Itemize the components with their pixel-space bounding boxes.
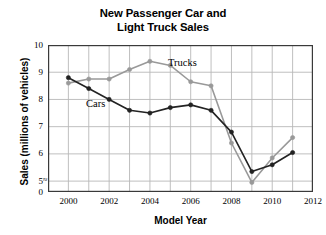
- data-point-cars: [127, 108, 131, 112]
- y-tick-label-5: 5: [21, 176, 43, 186]
- data-series-group: [66, 59, 294, 184]
- x-tick-label-2000: 2000: [48, 196, 88, 206]
- y-tick-label-6: 6: [21, 148, 43, 158]
- x-tick-label-2008: 2008: [211, 196, 251, 206]
- x-tick-label-2010: 2010: [252, 196, 292, 206]
- series-line-trucks: [68, 61, 292, 182]
- data-point-trucks: [270, 156, 274, 160]
- x-tick-label-2012: 2012: [293, 196, 326, 206]
- data-point-trucks: [209, 84, 213, 88]
- data-point-cars: [189, 103, 193, 107]
- y-tick-label-0: 0: [21, 187, 43, 197]
- y-axis-break-marker: ≈: [43, 176, 47, 184]
- chart-title-line-2: Light Truck Sales: [0, 21, 326, 35]
- data-point-trucks: [127, 67, 131, 71]
- data-point-cars: [229, 130, 233, 134]
- data-point-cars: [209, 108, 213, 112]
- data-point-cars: [148, 111, 152, 115]
- data-point-trucks: [229, 141, 233, 145]
- series-line-cars: [68, 78, 292, 172]
- data-point-cars: [250, 169, 254, 173]
- chart-title: New Passenger Car and Light Truck Sales: [0, 7, 326, 34]
- data-point-cars: [270, 163, 274, 167]
- y-tick-label-8: 8: [21, 94, 43, 104]
- y-tick-label-7: 7: [21, 121, 43, 131]
- chart-title-line-1: New Passenger Car and: [100, 7, 227, 19]
- x-tick-label-2004: 2004: [130, 196, 170, 206]
- x-axis-title: Model Year: [48, 215, 313, 226]
- series-label-cars: Cars: [86, 98, 105, 109]
- data-point-trucks: [250, 180, 254, 184]
- x-tick-label-2002: 2002: [89, 196, 129, 206]
- data-point-trucks: [66, 81, 70, 85]
- chart-figure: New Passenger Car and Light Truck Sales …: [0, 0, 326, 235]
- y-tick-label-9: 9: [21, 67, 43, 77]
- data-point-cars: [66, 76, 70, 80]
- data-point-trucks: [189, 80, 193, 84]
- data-point-cars: [87, 86, 91, 90]
- data-point-trucks: [291, 135, 295, 139]
- data-point-cars: [168, 106, 172, 110]
- x-tick-label-2006: 2006: [171, 196, 211, 206]
- y-tick-label-10: 10: [21, 40, 43, 50]
- data-point-cars: [291, 150, 295, 154]
- data-point-cars: [107, 97, 111, 101]
- data-point-trucks: [148, 59, 152, 63]
- data-point-trucks: [107, 77, 111, 81]
- data-point-trucks: [87, 77, 91, 81]
- series-label-trucks: Trucks: [168, 57, 197, 68]
